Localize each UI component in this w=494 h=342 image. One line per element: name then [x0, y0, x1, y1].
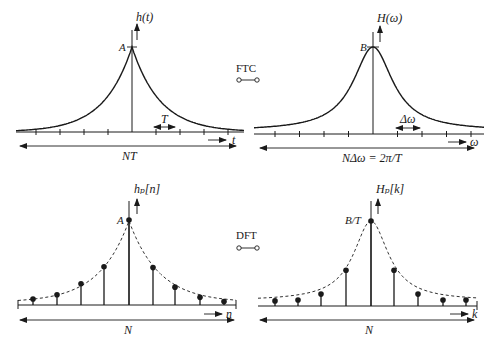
dft-left-node-icon [237, 246, 241, 250]
n-span-label: N [123, 323, 133, 337]
sample-dot [101, 264, 107, 270]
hp-n-stems [30, 217, 227, 305]
dft-transform-symbol: DFT [236, 229, 259, 250]
sample-dot [391, 268, 397, 274]
sample-dot [150, 265, 156, 271]
sample-dot [78, 281, 84, 287]
peak-label-a: A [118, 41, 126, 53]
sample-dot [172, 284, 178, 290]
sample-dot [440, 297, 446, 303]
sample-dot [463, 297, 469, 303]
ftc-right-node-icon [255, 78, 259, 82]
sample-dot [295, 297, 301, 303]
sample-dot [30, 296, 36, 302]
h-omega-curve [254, 47, 484, 128]
h-omega-label: H(ω) [376, 11, 402, 25]
fourier-diagram: h(t) A T t NT FTC H(ω) B Δω ω NΔω = 2π/T [0, 0, 494, 342]
panel-h-t: h(t) A T t NT [16, 10, 244, 163]
sample-dot [54, 292, 60, 298]
sample-dot [343, 268, 349, 274]
t-axis-label: t [232, 133, 236, 147]
n-delta-omega-span-label: NΔω = 2π/T [341, 151, 403, 165]
omega-axis-label: ω [470, 135, 478, 149]
hp-k-stems [272, 218, 469, 306]
k-span-label: N [364, 323, 374, 337]
sample-dot [126, 217, 132, 223]
sample-dot [272, 298, 278, 304]
t-spacing-label: T [161, 112, 169, 126]
nt-span-label: NT [121, 149, 138, 163]
sample-dot [415, 291, 421, 297]
peak-label-b: B [360, 41, 367, 53]
h-t-curve [16, 47, 244, 131]
dft-label: DFT [236, 229, 257, 241]
sample-dot [197, 295, 203, 301]
sample-peak-label-a: A [116, 214, 124, 226]
panel-hp-n: hₚ[n] A n N [18, 182, 236, 337]
hp-n-dashed-envelope [18, 221, 236, 301]
ftc-transform-symbol: FTC [236, 62, 259, 82]
sample-dot [368, 218, 374, 224]
k-axis-label: k [472, 307, 478, 321]
panel-hp-k: Hₚ[k] B/T k N [258, 182, 478, 337]
hp-k-label: Hₚ[k] [375, 182, 404, 196]
dft-right-node-icon [255, 246, 259, 250]
sample-dot [318, 291, 324, 297]
sample-dot [221, 299, 227, 305]
hp-k-dashed-envelope [258, 221, 477, 298]
n-axis-label: n [226, 307, 232, 321]
h-t-label: h(t) [136, 10, 153, 24]
hp-n-label: hₚ[n] [134, 182, 160, 196]
ftc-label: FTC [236, 62, 256, 74]
panel-h-omega: H(ω) B Δω ω NΔω = 2π/T [254, 11, 484, 165]
sample-peak-label-b-over-t: B/T [345, 214, 362, 226]
delta-omega-label: Δω [399, 112, 416, 126]
ftc-left-node-icon [237, 78, 241, 82]
